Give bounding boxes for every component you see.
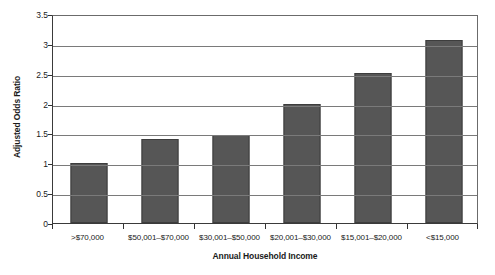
bar[interactable] [212,135,249,223]
x-tick-mark [336,224,337,229]
y-tick-mark [48,15,52,16]
bar-slot [53,16,124,223]
y-tick-label: 1.5 [22,130,48,139]
y-tick-label: 2.5 [22,70,48,79]
bar[interactable] [70,163,107,223]
y-tick-label: 3 [22,41,48,50]
x-tick-label: $30,001–$50,000 [199,232,260,244]
x-tick-label: $15,001–$20,000 [341,232,402,244]
y-tick-label: 2 [22,100,48,109]
bar-slot [408,16,479,223]
y-tick-mark [48,134,52,135]
y-tick-label: 3.5 [22,11,48,20]
x-axis-title: Annual Household Income [52,251,478,261]
x-axis-tick-marks [52,224,478,229]
x-tick-mark [407,224,408,229]
x-tick-label: <$15,000 [426,232,459,244]
x-tick-mark [477,224,478,229]
gridline [53,46,477,47]
gridline [53,165,477,166]
plot-area [52,15,478,224]
bar-slot [266,16,337,223]
y-tick-label: 1 [22,160,48,169]
x-tick-label: $50,001–$70,000 [128,232,189,244]
bars-layer [53,16,477,223]
x-tick-label: $20,001–$30,000 [270,232,331,244]
bar[interactable] [141,139,178,223]
y-tick-label: 0.5 [22,190,48,199]
x-tick-mark [123,224,124,229]
x-tick-mark [265,224,266,229]
x-axis-tick-labels: >$70,000$50,001–$70,000$30,001–$50,000$2… [52,232,478,246]
bar[interactable] [283,104,320,223]
y-tick-mark [48,194,52,195]
bar[interactable] [354,73,391,223]
y-tick-mark [48,45,52,46]
x-tick-label: >$70,000 [71,232,104,244]
gridline [53,135,477,136]
bar-slot [337,16,408,223]
x-tick-mark [52,224,53,229]
x-tick-mark [194,224,195,229]
bar-slot [124,16,195,223]
gridline [53,76,477,77]
y-axis-tick-labels: 00.511.522.533.5 [22,15,48,224]
y-tick-mark [48,75,52,76]
bar-slot [195,16,266,223]
bar-chart: Adjusted Odds Ratio 00.511.522.533.5 >$7… [0,0,495,275]
gridline [53,195,477,196]
y-tick-mark [48,164,52,165]
y-tick-label: 0 [22,220,48,229]
y-tick-mark [48,224,52,225]
gridline [53,106,477,107]
y-tick-mark [48,105,52,106]
